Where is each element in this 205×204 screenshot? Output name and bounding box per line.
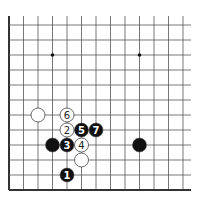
white-stone-2: 2 <box>60 123 74 137</box>
move-number: 5 <box>78 125 85 136</box>
black-stone-7: 7 <box>89 123 103 137</box>
black-stone <box>133 138 147 152</box>
move-number: 6 <box>64 110 70 121</box>
black-stone-5: 5 <box>75 123 89 137</box>
white-stone-4: 4 <box>75 138 89 152</box>
star-point <box>51 53 55 57</box>
move-number: 2 <box>64 125 70 136</box>
black-stone <box>46 138 60 152</box>
black-stone-1: 1 <box>60 168 74 182</box>
go-board: 6257341 <box>0 0 205 204</box>
white-stone <box>31 108 45 122</box>
white-stone-6: 6 <box>60 108 74 122</box>
black-stone-3: 3 <box>60 138 74 152</box>
star-point <box>138 53 142 57</box>
white-stone <box>75 153 89 167</box>
move-number: 3 <box>64 140 71 151</box>
move-number: 4 <box>78 140 84 151</box>
move-number: 7 <box>93 125 100 136</box>
move-number: 1 <box>64 170 71 181</box>
board-grid <box>9 16 191 190</box>
